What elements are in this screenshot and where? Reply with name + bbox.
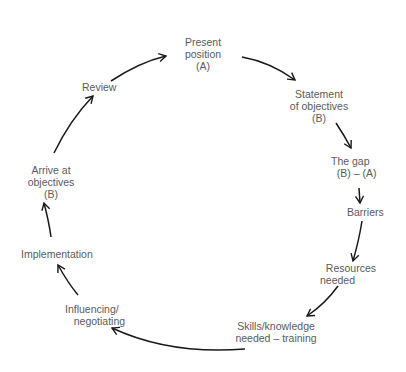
node-statement-of-objectives: Statement of objectives (B) [278,88,360,124]
arrow-gap-to-barriers [359,188,360,203]
arrow-statement-to-gap [336,123,351,148]
node-resources-needed: Resources needed [320,262,376,286]
arrow-present-to-statement [242,57,295,80]
arrow-skills-to-influencing [112,328,245,350]
node-skills-knowledge: Skills/knowledge needed – training [231,320,321,344]
arrow-review-to-present [111,56,166,81]
node-the-gap: The gap (B) – (A) [331,155,377,179]
node-influencing-negotiating: Influencing/ negotiating [65,303,125,327]
node-implementation: Implementation [21,248,93,260]
arrow-arrive-to-review [54,96,93,153]
arrow-implementation-to-arrive [44,203,51,237]
node-review: Review [82,81,116,93]
node-arrive-at-objectives: Arrive at objectives (B) [25,164,77,200]
node-barriers: Barriers [347,206,384,218]
node-present-position: Present position (A) [168,36,238,72]
arrow-resources-to-skills [307,286,338,316]
arrow-influencing-to-implementation [58,265,78,295]
arrow-barriers-to-resources [353,221,362,261]
